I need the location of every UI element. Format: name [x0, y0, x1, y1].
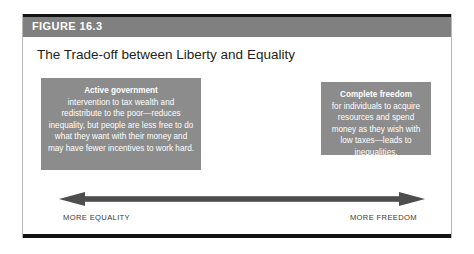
figure-container: FIGURE 16.3 The Trade-off between Libert… — [22, 14, 452, 238]
statement-box-active-government: Active government intervention to tax we… — [41, 78, 201, 170]
statement-box-complete-freedom: Complete freedom for individuals to acqu… — [321, 82, 431, 155]
double-headed-horizontal-arrow-icon — [59, 192, 425, 206]
figure-number-label: FIGURE 16.3 — [32, 20, 102, 32]
statement-box-left-heading: Active government — [47, 85, 195, 96]
page-title: The Trade-off between Liberty and Equali… — [37, 47, 295, 62]
statement-box-left-body: intervention to tax wealth and redistrib… — [47, 97, 195, 154]
figure-header-band: FIGURE 16.3 — [23, 17, 451, 37]
axis-caption-more-equality: MORE EQUALITY — [63, 213, 130, 222]
axis-caption-more-freedom: MORE FREEDOM — [350, 213, 417, 222]
bottom-rule — [23, 234, 451, 238]
statement-box-right-body: for individuals to acquire resources and… — [326, 101, 426, 158]
statement-box-right-heading: Complete freedom — [326, 89, 426, 100]
